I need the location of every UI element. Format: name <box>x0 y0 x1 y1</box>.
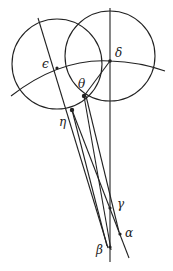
geometry-diagram: δ ϵ θ η γ α β <box>0 0 173 271</box>
line-epsilon-eta-beta <box>38 18 108 248</box>
line-theta-gamma <box>86 96 119 232</box>
label-gamma: γ <box>117 197 125 211</box>
point-gamma <box>108 206 111 209</box>
point-beta <box>108 245 111 248</box>
label-delta: δ <box>115 46 122 60</box>
label-theta: θ <box>78 77 86 91</box>
line-eta-alpha <box>72 110 129 258</box>
label-alpha: α <box>125 226 133 240</box>
point-epsilon <box>55 66 58 69</box>
label-eta: η <box>59 115 67 129</box>
point-theta <box>82 94 86 98</box>
label-beta: β <box>95 243 103 257</box>
label-epsilon: ϵ <box>42 57 49 71</box>
point-alpha <box>118 232 121 235</box>
point-eta <box>70 108 74 112</box>
line-delta-theta <box>84 61 110 96</box>
point-delta <box>108 59 112 63</box>
